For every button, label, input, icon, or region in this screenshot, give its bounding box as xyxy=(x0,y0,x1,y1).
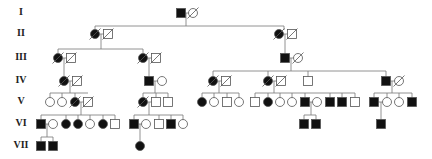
male-square-icon xyxy=(326,98,335,107)
male-square-icon xyxy=(111,120,120,129)
individual-iv-1 xyxy=(59,76,70,87)
female-circle-icon xyxy=(158,77,167,86)
individual-vi-14 xyxy=(312,120,321,129)
individual-vi-11 xyxy=(167,120,176,129)
individual-v-9 xyxy=(210,98,219,107)
male-square-icon xyxy=(377,120,386,129)
male-square-icon xyxy=(312,120,321,129)
male-square-icon xyxy=(37,142,46,151)
individual-iv-5 xyxy=(208,76,219,87)
individual-iii-3 xyxy=(138,53,149,64)
male-square-icon xyxy=(370,98,379,107)
individual-v-20 xyxy=(351,98,360,107)
individual-v-3 xyxy=(70,97,81,108)
individual-vi-1 xyxy=(37,120,46,129)
individuals xyxy=(37,8,417,151)
female-circle-icon xyxy=(62,120,71,129)
male-square-icon xyxy=(301,98,310,107)
individual-iv-10 xyxy=(382,77,391,86)
male-square-icon xyxy=(145,77,154,86)
male-square-icon xyxy=(251,98,260,107)
individual-iv-9 xyxy=(304,77,313,86)
individual-ii-1 xyxy=(90,29,101,40)
individual-v-2 xyxy=(58,98,67,107)
male-square-icon xyxy=(164,98,173,107)
individual-vi-15 xyxy=(377,120,386,129)
female-circle-icon xyxy=(136,142,145,151)
individual-v-11 xyxy=(235,98,244,107)
individual-iv-6 xyxy=(221,76,232,87)
individual-vi-10 xyxy=(155,120,164,129)
individual-iii-5 xyxy=(281,54,290,63)
male-square-icon xyxy=(49,142,58,151)
individual-ii-3 xyxy=(274,29,285,40)
male-square-icon xyxy=(37,120,46,129)
individual-vi-13 xyxy=(300,120,309,129)
female-circle-icon xyxy=(99,120,108,129)
individual-vi-8 xyxy=(130,120,139,129)
individual-i-1 xyxy=(177,9,186,18)
individual-iv-3 xyxy=(145,77,154,86)
individual-vi-5 xyxy=(86,120,95,129)
individual-iv-8 xyxy=(276,76,287,87)
individual-iii-1 xyxy=(53,53,64,64)
individual-v-8 xyxy=(198,98,207,107)
individual-v-6 xyxy=(152,98,161,107)
female-circle-icon xyxy=(313,98,322,107)
male-square-icon xyxy=(281,54,290,63)
male-square-icon xyxy=(408,98,417,107)
female-circle-icon xyxy=(49,120,58,129)
pedigree-chart: I II III IV V VI VII xyxy=(0,0,432,159)
female-circle-icon xyxy=(74,120,83,129)
female-circle-icon xyxy=(395,98,404,107)
individual-v-13 xyxy=(264,98,273,107)
individual-vi-7 xyxy=(111,120,120,129)
individual-i-2 xyxy=(188,8,199,19)
individual-v-12 xyxy=(251,98,260,107)
male-square-icon xyxy=(167,120,176,129)
pedigree-svg xyxy=(0,0,432,159)
individual-ii-2 xyxy=(103,29,114,40)
female-circle-icon xyxy=(383,98,392,107)
female-circle-icon xyxy=(210,98,219,107)
individual-iv-11 xyxy=(394,76,405,87)
male-square-icon xyxy=(300,120,309,129)
individual-v-23 xyxy=(395,98,404,107)
individual-iii-4 xyxy=(151,53,162,64)
individual-v-24 xyxy=(408,98,417,107)
individual-iv-4 xyxy=(158,77,167,86)
individual-v-21 xyxy=(370,98,379,107)
female-circle-icon xyxy=(276,98,285,107)
male-square-icon xyxy=(338,98,347,107)
individual-vii-2 xyxy=(49,142,58,151)
individual-v-5 xyxy=(138,97,149,108)
individual-v-10 xyxy=(223,98,232,107)
female-circle-icon xyxy=(198,98,207,107)
male-square-icon xyxy=(304,77,313,86)
individual-vi-4 xyxy=(74,120,83,129)
female-circle-icon xyxy=(179,120,188,129)
female-circle-icon xyxy=(86,120,95,129)
individual-iv-2 xyxy=(72,76,83,87)
individual-v-1 xyxy=(46,98,55,107)
female-circle-icon xyxy=(46,98,55,107)
male-square-icon xyxy=(155,120,164,129)
individual-iii-6 xyxy=(293,53,304,64)
individual-v-15 xyxy=(288,98,297,107)
male-square-icon xyxy=(152,98,161,107)
individual-vi-12 xyxy=(179,120,188,129)
individual-iii-2 xyxy=(66,53,77,64)
female-circle-icon xyxy=(235,98,244,107)
female-circle-icon xyxy=(58,98,67,107)
male-square-icon xyxy=(130,120,139,129)
individual-vi-9 xyxy=(142,120,151,129)
individual-v-4 xyxy=(83,97,94,108)
individual-vii-1 xyxy=(37,142,46,151)
individual-v-18 xyxy=(326,98,335,107)
individual-vi-2 xyxy=(49,120,58,129)
individual-v-16 xyxy=(301,98,310,107)
female-circle-icon xyxy=(288,98,297,107)
individual-vii-3 xyxy=(136,142,145,151)
individual-v-17 xyxy=(313,98,322,107)
individual-v-19 xyxy=(338,98,347,107)
